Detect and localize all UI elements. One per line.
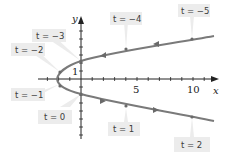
y-axis-label: y xyxy=(71,13,78,24)
callout-t-minus-2: t = −2 xyxy=(11,43,45,56)
svg-text:t = −1: t = −1 xyxy=(15,90,43,100)
callout-t-minus-5: t = −5 xyxy=(178,4,210,17)
x-tick-label-10: 10 xyxy=(187,84,200,95)
x-axis-arrow-icon xyxy=(211,76,219,82)
x-tick-label-5: 5 xyxy=(133,84,139,95)
x-axis-label: x xyxy=(213,85,219,96)
svg-text:t = −4: t = −4 xyxy=(113,14,141,24)
callout-t-minus-3: t = −3 xyxy=(32,29,66,42)
y-tick-label-1: 1 xyxy=(72,66,78,77)
direction-arrow-icons xyxy=(100,41,159,113)
y-axis-arrow-icon xyxy=(78,16,84,24)
svg-text:t = −3: t = −3 xyxy=(36,31,64,41)
svg-text:t = −5: t = −5 xyxy=(181,6,209,16)
callout-t-0: t = 0 xyxy=(38,110,72,124)
svg-text:t = −2: t = −2 xyxy=(15,45,43,55)
parametric-curve-chart: y x 5 10 1 t = −5 t = −4 t = −3 t = −2 xyxy=(0,0,227,162)
callout-t-2: t = 2 xyxy=(174,137,210,152)
svg-text:t = 1: t = 1 xyxy=(113,124,134,134)
callout-t-minus-1: t = −1 xyxy=(11,88,45,101)
svg-text:t = 2: t = 2 xyxy=(181,140,202,150)
callout-t-1: t = 1 xyxy=(108,122,140,136)
callout-t-minus-4: t = −4 xyxy=(110,12,142,25)
svg-text:t = 0: t = 0 xyxy=(44,112,65,122)
